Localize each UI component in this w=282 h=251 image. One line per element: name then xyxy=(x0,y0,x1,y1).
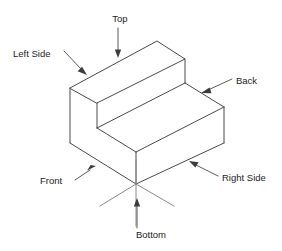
arrow-head-bottom xyxy=(134,198,140,207)
label-front: Front xyxy=(40,175,63,186)
leader-line-back xyxy=(208,79,232,90)
arrow-head-right-side xyxy=(189,161,199,168)
label-back: Back xyxy=(236,75,257,86)
leader-left-side xyxy=(64,51,87,75)
label-right-side: Right Side xyxy=(222,172,266,183)
leader-bottom xyxy=(134,198,140,228)
diagram-canvas: Top Left Side Back Right Side Front Bott… xyxy=(0,0,282,251)
arrow-head-back xyxy=(201,87,212,93)
arrow-head-front xyxy=(87,165,96,171)
leader-top xyxy=(115,28,121,58)
leader-line-front xyxy=(75,170,90,180)
label-left-side: Left Side xyxy=(13,48,51,59)
hidden-bottom-right-edge xyxy=(136,184,174,206)
stepped-block-diagram: Top Left Side Back Right Side Front Bott… xyxy=(0,0,282,251)
leader-back xyxy=(201,79,232,93)
leader-line-right-side xyxy=(196,165,218,176)
leader-front xyxy=(75,165,96,180)
hidden-bottom-left-edge xyxy=(100,184,136,206)
solid-body xyxy=(70,41,224,184)
leader-right-side xyxy=(189,161,218,176)
arrow-head-top xyxy=(115,50,121,59)
label-top: Top xyxy=(112,13,127,24)
label-bottom: Bottom xyxy=(136,229,166,240)
arrow-head-left-side xyxy=(78,67,87,75)
leader-line-left-side xyxy=(64,51,82,70)
